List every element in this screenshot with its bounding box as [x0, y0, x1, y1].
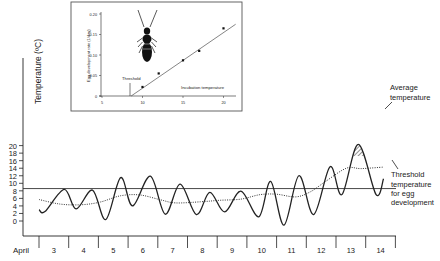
day-label: 7 [171, 246, 175, 255]
day-label: 8 [200, 246, 204, 255]
daily-temperature-line [39, 144, 384, 225]
day-label: 4 [81, 246, 85, 255]
inset-x-tick-label: 20 [221, 101, 225, 105]
average-temperature-line [39, 167, 384, 205]
y-axis-label: Temperature (ºC) [33, 39, 43, 104]
inset-data-point [158, 72, 160, 74]
inset-x-tick-label: 5 [101, 101, 103, 105]
avg-label-1: Average [390, 83, 418, 92]
temperature-series [39, 144, 384, 225]
day-label: 11 [288, 246, 296, 255]
day-label: 6 [141, 246, 145, 255]
day-label: 10 [258, 246, 266, 255]
avg-label-2: temperature [390, 93, 430, 102]
thr-label-3: for egg [391, 189, 414, 198]
inset-threshold-label: Threshold [122, 76, 141, 81]
inset-data-point [141, 86, 143, 88]
day-label: 3 [52, 246, 56, 255]
inset-y-tick-label: 0.20 [90, 13, 97, 17]
day-label: 13 [347, 246, 355, 255]
inset-x-label: Incubation temperature [181, 85, 225, 90]
thr-label-2: temperature [391, 180, 431, 189]
thr-label-1: Threshold [391, 170, 424, 179]
day-label: 5 [111, 246, 115, 255]
thr-pointer [392, 160, 398, 169]
avg-pointer [385, 102, 392, 109]
day-label: 9 [230, 246, 234, 255]
above-threshold-hatched-area [39, 144, 384, 225]
day-label: 12 [317, 246, 325, 255]
inset-x-tick-label: 15 [181, 101, 185, 105]
inset-y-tick-label: 0 [95, 95, 97, 99]
hatch-fill [39, 144, 384, 225]
x-axis-prefix: April [13, 246, 29, 255]
inset-x-tick-label: 10 [140, 101, 144, 105]
inset-data-point [222, 27, 224, 29]
day-label: 14 [376, 246, 384, 255]
inset-chart: 00.050.100.150.205101520 Egg development… [71, 2, 242, 111]
thr-label-4: development [391, 198, 435, 207]
inset-data-point [198, 50, 200, 52]
inset-y-label: Egg development rate (1/day) [86, 29, 91, 82]
inset-data-point [182, 59, 184, 61]
temperature-chart: 0246810121416182034567891011121314 Tempe… [0, 0, 440, 261]
y-tick-label: 20 [9, 142, 17, 151]
